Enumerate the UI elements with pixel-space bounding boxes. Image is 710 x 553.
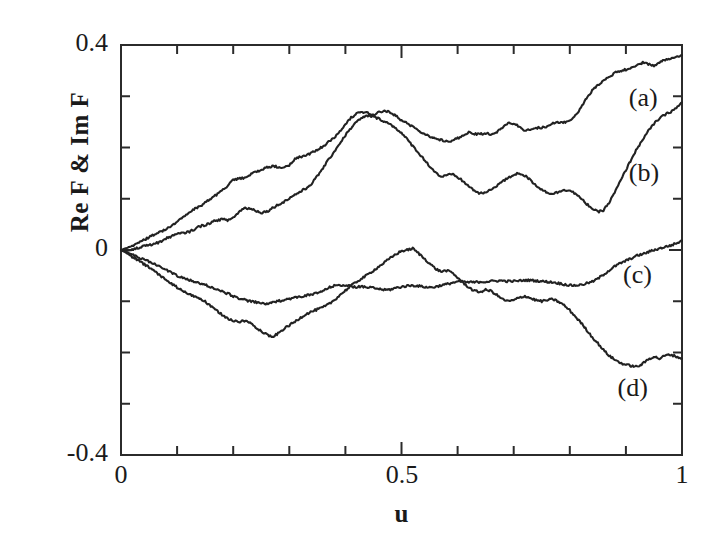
data-curves (121, 55, 682, 367)
figure-container: Re F & Im F u 0.4 0 -0.4 0 0.5 1 (a) (b)… (0, 0, 710, 553)
plot-area (0, 0, 710, 553)
